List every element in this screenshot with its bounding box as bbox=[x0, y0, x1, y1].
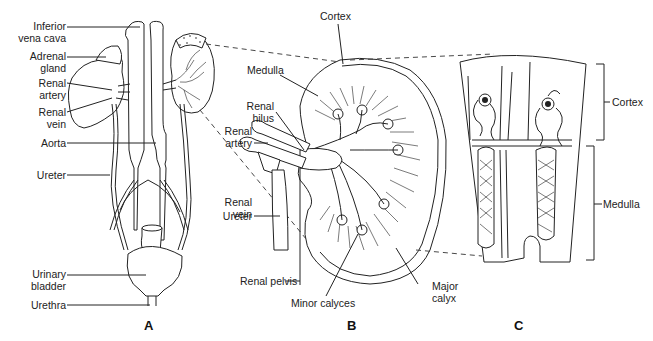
kidney-anatomy-figure: Inferior vena cava Adrenal gland Renal a… bbox=[0, 0, 653, 341]
label-adrenal-gland: Adrenal gland bbox=[2, 50, 66, 74]
label-renal-pelvis: Renal pelvis bbox=[240, 275, 297, 287]
panel-b-drawing bbox=[240, 58, 446, 285]
label-medulla-c: Medulla bbox=[603, 198, 640, 210]
panel-c-drawing bbox=[460, 55, 586, 262]
label-medulla-b: Medulla bbox=[247, 64, 284, 76]
label-major-calyx: Major calyx bbox=[432, 280, 458, 304]
label-ureter-a: Ureter bbox=[2, 169, 66, 181]
panel-c-brackets bbox=[586, 64, 610, 260]
label-renal-artery-b: Renal artery bbox=[210, 125, 252, 149]
label-renal-vein-a: Renal vein bbox=[2, 106, 66, 130]
panel-a-drawing bbox=[68, 21, 214, 306]
label-aorta: Aorta bbox=[2, 137, 66, 149]
label-urethra: Urethra bbox=[2, 299, 66, 311]
panel-label-a: A bbox=[144, 318, 153, 333]
diagram-drawing bbox=[0, 0, 653, 341]
panel-label-b: B bbox=[347, 318, 356, 333]
label-renal-hilus: Renal hilus bbox=[230, 100, 274, 124]
label-minor-calyces: Minor calyces bbox=[291, 297, 355, 309]
panel-label-c: C bbox=[514, 318, 523, 333]
label-cortex-c: Cortex bbox=[612, 96, 643, 108]
label-urinary-bladder: Urinary bladder bbox=[2, 268, 66, 292]
label-renal-artery-a: Renal artery bbox=[2, 77, 66, 101]
label-cortex-b: Cortex bbox=[320, 10, 351, 22]
label-ureter-b: Ureter bbox=[210, 210, 252, 222]
label-inferior-vena-cava: Inferior vena cava bbox=[2, 20, 66, 44]
